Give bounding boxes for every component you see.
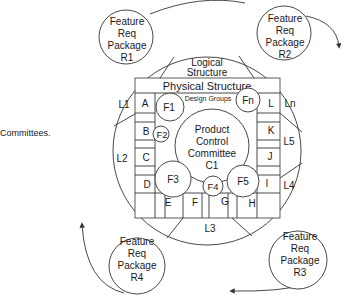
pcc-label-4: C1 (206, 160, 219, 171)
f5-label: F5 (237, 176, 249, 187)
committee-diagram: Logical Structure Physical Structure Des… (0, 0, 348, 296)
design-groups-label: Design Groups (185, 95, 232, 103)
fn-label: Fn (242, 95, 254, 106)
svg-text:R2: R2 (279, 49, 292, 60)
pcc-label-2: Control (196, 136, 228, 147)
svg-text:Package: Package (118, 260, 157, 271)
layer-ln: Ln (284, 98, 295, 109)
logical-left-line (160, 57, 174, 78)
cell-j: J (268, 151, 273, 162)
svg-text:Feature: Feature (120, 236, 155, 247)
physical-structure-title: Physical Structure (163, 80, 252, 92)
package-r2: Feature Req Package R2 (257, 6, 311, 60)
pcc-label-1: Product (195, 124, 230, 135)
package-r4: Feature Req Package R4 (109, 236, 165, 294)
svg-text:Package: Package (266, 37, 305, 48)
cell-f: F (192, 197, 198, 208)
layer-l5: L5 (283, 136, 295, 147)
layer-l4: L4 (283, 180, 295, 191)
cell-i: I (266, 178, 269, 189)
svg-text:R1: R1 (121, 52, 134, 63)
l3-right-divider (232, 218, 252, 236)
cell-c: C (142, 152, 149, 163)
svg-text:Req: Req (128, 248, 146, 259)
cell-g: G (221, 196, 229, 207)
cell-a: A (142, 98, 149, 109)
layer-l1: L1 (118, 99, 130, 110)
package-r1: Feature Req Package R1 (99, 10, 153, 64)
svg-text:Package: Package (281, 255, 320, 266)
cell-b: B (143, 126, 150, 137)
svg-text:Req: Req (118, 28, 136, 39)
svg-text:Feature: Feature (283, 231, 318, 242)
pcc-label-3: Committee (188, 148, 237, 159)
f1-label: F1 (163, 102, 175, 113)
f4-label: F4 (207, 181, 218, 192)
svg-text:R3: R3 (294, 267, 307, 278)
f3-label: F3 (167, 174, 179, 185)
ln-l5-divider (280, 113, 302, 132)
cell-k: K (268, 125, 275, 136)
logical-label-2: Structure (187, 67, 228, 78)
cell-d: D (143, 179, 150, 190)
l1-l2-divider (114, 114, 135, 126)
svg-text:Req: Req (291, 243, 309, 254)
layer-l3: L3 (204, 223, 216, 234)
svg-text:Feature: Feature (110, 16, 145, 27)
logical-right-line (239, 56, 254, 78)
cell-l: L (268, 98, 274, 109)
package-r3: Feature Req Package R3 (269, 231, 327, 289)
f2-label: F2 (156, 129, 167, 140)
arrow-r1-to-r2 (150, 0, 245, 14)
svg-text:Package: Package (108, 40, 147, 51)
svg-text:R4: R4 (131, 272, 144, 283)
svg-text:Req: Req (276, 25, 294, 36)
cell-e: E (165, 197, 172, 208)
cell-h: H (248, 198, 255, 209)
l3-left-divider (167, 218, 183, 238)
svg-text:Feature: Feature (268, 13, 303, 24)
layer-l2: L2 (116, 153, 128, 164)
